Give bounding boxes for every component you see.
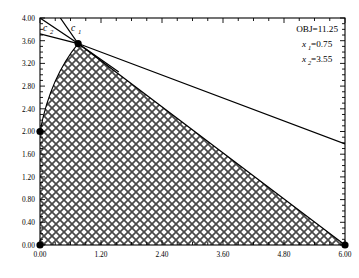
x-tick-label: 1.20 bbox=[95, 250, 108, 259]
y-tick-label: 4.00 bbox=[22, 14, 35, 23]
y-tick-label: 2.80 bbox=[22, 82, 35, 91]
y-tick-label: 0.80 bbox=[22, 195, 35, 204]
vertex-point bbox=[75, 40, 82, 47]
y-tick-label: 0.40 bbox=[22, 218, 35, 227]
y-tick-label: 3.20 bbox=[22, 59, 35, 68]
svg-text:c: c bbox=[43, 22, 48, 33]
obj-value-text: OBJ=11.25 bbox=[296, 24, 338, 34]
y-tick-label: 1.20 bbox=[22, 173, 35, 182]
vertex-point bbox=[36, 128, 43, 135]
vertex-point bbox=[36, 241, 43, 248]
y-tick-label: 2.00 bbox=[22, 127, 35, 136]
y-tick-label: 2.40 bbox=[22, 105, 35, 114]
y-tick-label: 3.60 bbox=[22, 37, 35, 46]
annotation-block: OBJ=11.25 x 1 =0.75 x 2 =3.55 bbox=[296, 24, 338, 66]
y-tick-label: 0.00 bbox=[22, 241, 35, 250]
svg-text:1: 1 bbox=[78, 28, 81, 35]
vertex-point bbox=[341, 241, 348, 248]
x-tick-label: 2.40 bbox=[156, 250, 169, 259]
svg-text:=0.75: =0.75 bbox=[311, 39, 333, 49]
x-tick-label: 0.00 bbox=[34, 250, 47, 259]
svg-text:=3.55: =3.55 bbox=[311, 54, 333, 64]
x-tick-label: 4.80 bbox=[278, 250, 291, 259]
x-tick-label: 6.00 bbox=[339, 250, 352, 259]
linear-programming-feasible-region-chart: 0.001.202.403.604.806.00 0.000.400.801.2… bbox=[0, 0, 359, 278]
x-tick-label: 3.60 bbox=[217, 250, 230, 259]
y-tick-label: 1.60 bbox=[22, 150, 35, 159]
svg-text:c: c bbox=[71, 22, 76, 33]
